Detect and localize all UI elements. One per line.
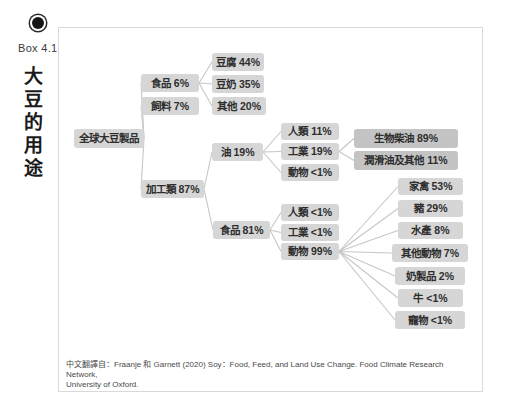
- node-global-soy: 全球大豆製品: [74, 129, 144, 148]
- box-label: Box 4.1: [18, 42, 57, 54]
- source-note-line2: University of Oxford.: [66, 380, 138, 389]
- node-pet-lt1: 寵物 <1%: [395, 311, 465, 329]
- node-animal-99: 動物 99%: [281, 243, 339, 260]
- figure-title: 大豆的用途: [18, 66, 45, 181]
- node-other-animal-7: 其他動物 7%: [392, 244, 468, 262]
- node-industry-19: 工業 19%: [281, 143, 339, 160]
- node-dairy-2: 奶製品 2%: [395, 267, 465, 285]
- node-animal-lt1: 動物 <1%: [281, 164, 339, 181]
- node-pig-29: 豬 29%: [398, 200, 463, 217]
- node-tofu-44: 豆腐 44%: [212, 53, 264, 71]
- bullseye-icon: [32, 17, 44, 29]
- node-industry-lt1: 工業 <1%: [281, 224, 339, 241]
- figure-page: Box 4.1 大豆的用途 全球大豆製品食品 6%飼料 7%加工類 87%豆腐 …: [0, 0, 505, 408]
- node-other-20: 其他 20%: [212, 97, 266, 115]
- node-cattle-lt1: 牛 <1%: [398, 289, 463, 307]
- source-note-line1: 中文翻譯自：Fraanje 和 Garnett (2020) Soy：Food,…: [66, 360, 444, 379]
- node-food-6: 食品 6%: [141, 74, 199, 92]
- node-oil-19: 油 19%: [212, 143, 263, 161]
- node-poultry-53: 家禽 53%: [398, 178, 463, 195]
- node-human-lt1: 人類 <1%: [281, 204, 339, 221]
- node-biodiesel-89: 生物柴油 89%: [354, 129, 458, 148]
- node-feed-7: 飼料 7%: [141, 97, 199, 115]
- source-note: 中文翻譯自：Fraanje 和 Garnett (2020) Soy：Food,…: [66, 360, 470, 390]
- node-soymilk-35: 豆奶 35%: [212, 75, 264, 93]
- node-processed-87: 加工類 87%: [141, 180, 204, 198]
- node-aqua-8: 水產 8%: [398, 222, 463, 239]
- node-lubricant-11: 潤滑油及其他 11%: [354, 151, 458, 170]
- node-food-81: 食品 81%: [213, 221, 270, 239]
- node-human-11: 人類 11%: [281, 123, 339, 140]
